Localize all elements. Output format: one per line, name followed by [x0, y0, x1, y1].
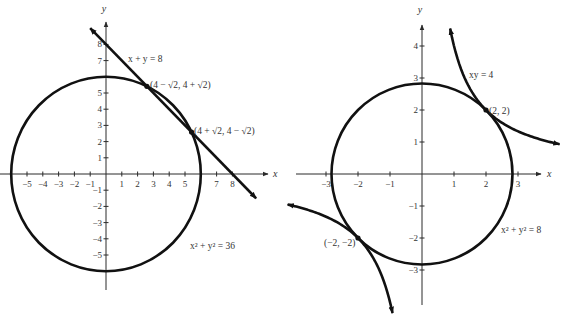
y-tick-label: −4	[92, 234, 102, 244]
graph-circle-hyperbola: xy−3−2−1123−3−2−11234(2, 2)(−2, −2)xy = …	[288, 4, 560, 313]
x-tick-label: 3	[516, 179, 521, 189]
intersection-point	[144, 84, 149, 89]
y-axis-label: y	[101, 3, 107, 14]
x-tick-label: 4	[167, 179, 172, 189]
y-tick-label: 1	[414, 137, 419, 147]
x-tick-label: −3	[321, 179, 331, 189]
intersection-point	[355, 235, 360, 240]
x-tick-label: 7	[214, 179, 219, 189]
line-curve	[90, 28, 256, 198]
hyperbola-branch-negative	[288, 204, 393, 313]
y-tick-label: −3	[408, 265, 418, 275]
y-tick-label: 1	[98, 153, 103, 163]
x-tick-label: 8	[230, 179, 235, 189]
x-tick-label: −3	[54, 179, 64, 189]
y-axis-label: y	[417, 4, 423, 15]
y-tick-label: 2	[414, 105, 419, 115]
y-tick-label: −2	[92, 201, 102, 211]
x-tick-label: 1	[452, 179, 457, 189]
x-tick-label: 3	[151, 179, 156, 189]
y-tick-label: 5	[98, 88, 103, 98]
y-tick-label: −2	[408, 233, 418, 243]
hyperbola-equation-label: xy = 4	[469, 70, 494, 80]
hyperbola-branch-positive	[450, 29, 559, 145]
x-axis-label: x	[546, 168, 552, 179]
y-tick-label: 2	[98, 137, 103, 147]
x-axis-label: x	[272, 168, 278, 179]
x-tick-label: −2	[70, 179, 80, 189]
x-tick-label: −2	[353, 179, 363, 189]
y-tick-label: 4	[414, 41, 419, 51]
diagram-canvas: xy−5−4−3−2−11234578−5−4−3−2−11234578(4 −…	[0, 0, 566, 314]
x-tick-label: −4	[38, 179, 48, 189]
y-tick-label: 7	[98, 56, 103, 66]
intersection-point	[483, 107, 488, 112]
x-tick-label: −1	[385, 179, 395, 189]
line-equation-label: x + y = 8	[128, 54, 163, 64]
x-tick-label: 5	[183, 179, 188, 189]
x-tick-label: 1	[120, 179, 125, 189]
y-tick-label: −1	[92, 185, 102, 195]
y-tick-label: 3	[414, 73, 419, 83]
x-tick-label: −5	[22, 179, 32, 189]
point-label: (−2, −2)	[324, 238, 355, 249]
y-tick-label: 3	[98, 120, 103, 130]
y-tick-label: 4	[98, 104, 103, 114]
circle-equation-label: x² + y² = 8	[501, 225, 541, 235]
point-label: (4 + √2, 4 − √2)	[194, 126, 255, 137]
y-tick-label: −1	[408, 201, 418, 211]
y-tick-label: −5	[92, 250, 102, 260]
x-tick-label: 2	[135, 179, 140, 189]
circle-equation-label: x² + y² = 36	[190, 241, 235, 251]
y-tick-label: −3	[92, 218, 102, 228]
graph-circle-line: xy−5−4−3−2−11234578−5−4−3−2−11234578(4 −…	[0, 3, 278, 290]
point-label: (2, 2)	[489, 106, 510, 117]
point-label: (4 − √2, 4 + √2)	[150, 80, 211, 91]
x-tick-label: 2	[484, 179, 489, 189]
